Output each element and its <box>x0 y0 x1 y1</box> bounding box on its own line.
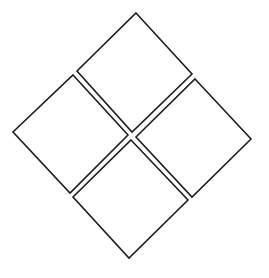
diamond-diagram <box>0 0 269 278</box>
